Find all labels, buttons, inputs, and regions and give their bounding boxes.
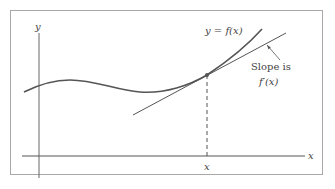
figure-frame: [11, 11, 323, 175]
derivative-diagram: y x x y = f(x) Slope is f′(x): [0, 0, 335, 189]
function-curve: [24, 29, 262, 92]
tangent-line: [133, 33, 286, 115]
slope-annotation-line1: Slope is: [251, 61, 291, 72]
curve-label: y = f(x): [204, 25, 243, 36]
x-axis-label: x: [308, 150, 314, 161]
point-x-label: x: [204, 161, 210, 172]
slope-annotation-line2: f′(x): [258, 76, 279, 87]
tangent-point: [205, 73, 209, 77]
y-axis-label: y: [34, 21, 41, 32]
